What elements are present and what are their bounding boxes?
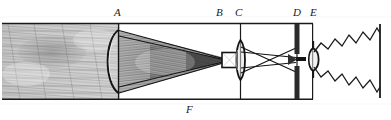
lens-C-biconvex [236, 40, 245, 80]
diagram-canvas [0, 0, 391, 120]
label-A: A [114, 7, 121, 18]
label-D: D [293, 7, 301, 18]
optical-ray-diagram-figure: A B C D E F [0, 0, 391, 120]
label-E: E [310, 7, 317, 18]
zigzag-beam-upper [314, 28, 381, 52]
label-F: F [186, 104, 193, 115]
aperture-B-rectangular-stop [222, 53, 237, 68]
zigzag-beam-lower [314, 67, 381, 92]
label-C: C [235, 7, 242, 18]
hatched-beam-field [2, 24, 120, 99]
crossing-rays-C-to-D [241, 47, 296, 73]
label-B: B [216, 7, 223, 18]
